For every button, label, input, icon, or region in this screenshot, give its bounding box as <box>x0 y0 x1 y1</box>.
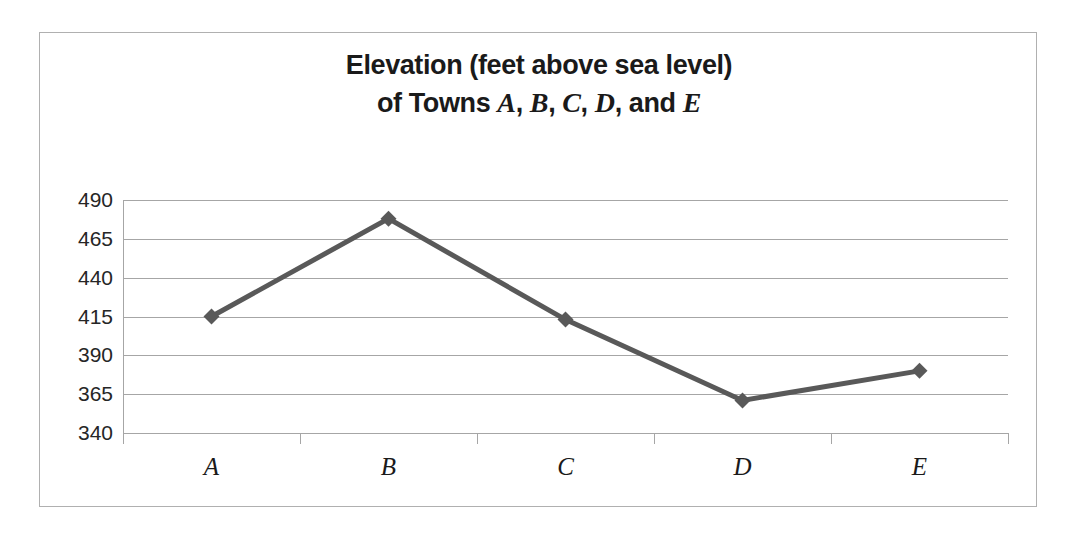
chart-title: Elevation (feet above sea level) of Town… <box>40 47 1038 122</box>
y-tick-label-440: 440 <box>43 266 113 290</box>
x-axis-label-a: A <box>204 453 219 481</box>
x-tick-4 <box>831 433 832 444</box>
chart-title-town-d: D <box>595 87 615 118</box>
x-axis-label-c: C <box>557 453 574 481</box>
y-tick-label-465: 465 <box>43 227 113 251</box>
data-point-e <box>912 363 928 379</box>
x-axis-label-e: E <box>912 453 927 481</box>
x-tick-2 <box>477 433 478 444</box>
y-tick-label-365: 365 <box>43 382 113 406</box>
y-tick-label-390: 390 <box>43 343 113 367</box>
y-axis-labels: 490465440415390365340 <box>40 200 113 433</box>
y-tick-label-340: 340 <box>43 421 113 445</box>
x-tick-5 <box>1008 433 1009 444</box>
x-axis-label-d: D <box>733 453 751 481</box>
x-tick-1 <box>300 433 301 444</box>
chart-title-line-2: of Towns A, B, C, D, and E <box>40 84 1038 122</box>
x-axis-label-b: B <box>381 453 396 481</box>
chart-title-towns-prefix: of Towns <box>377 88 497 118</box>
chart-title-town-c: C <box>562 87 580 118</box>
chart-title-towns-suffix: and <box>629 88 683 118</box>
x-tick-0 <box>123 433 124 444</box>
y-tick-label-415: 415 <box>43 305 113 329</box>
x-tick-3 <box>654 433 655 444</box>
series-polyline <box>212 219 920 401</box>
x-axis-ticks <box>123 433 1008 445</box>
chart-title-town-b: B <box>530 87 548 118</box>
data-point-d <box>735 392 751 408</box>
chart-frame: Elevation (feet above sea level) of Town… <box>39 32 1037 507</box>
chart-title-town-e: E <box>683 87 701 118</box>
x-axis-labels: ABCDE <box>123 453 1008 493</box>
series-markers <box>204 211 928 409</box>
y-tick-label-490: 490 <box>43 188 113 212</box>
chart-title-line-1: Elevation (feet above sea level) <box>346 50 732 80</box>
chart-title-town-a: A <box>497 87 515 118</box>
series-line-chart <box>123 200 1008 433</box>
plot-area <box>123 200 1008 433</box>
